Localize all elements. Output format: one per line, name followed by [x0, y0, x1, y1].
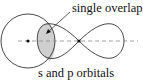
p-nucleus-dot	[77, 39, 80, 42]
callout-label: single overlap	[72, 1, 142, 16]
s-nucleus-dot	[26, 39, 29, 42]
diagram-caption: s and p orbitals	[38, 66, 114, 81]
callout-line	[48, 12, 70, 32]
